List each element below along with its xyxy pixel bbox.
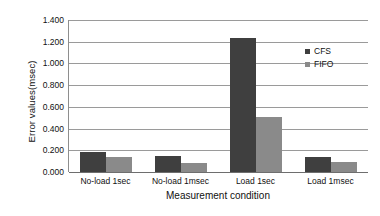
legend-entry[interactable]: CFS (305, 45, 333, 58)
legend-label: CFS (314, 47, 331, 56)
x-tick-label: Load 1sec (218, 176, 293, 186)
bar-fifo[interactable] (106, 157, 132, 172)
y-tick-label: 0.200 (20, 146, 64, 155)
bar-group (69, 20, 144, 172)
bar-cfs[interactable] (80, 152, 106, 172)
bar-fifo[interactable] (181, 163, 207, 172)
x-tick-label: Load 1msec (293, 176, 368, 186)
y-tick-label: 0.400 (20, 124, 64, 133)
y-tick-label: 1.000 (20, 59, 64, 68)
x-tick-label: No-load 1sec (68, 176, 143, 186)
bar-group (144, 20, 219, 172)
bar-cfs[interactable] (305, 157, 331, 172)
legend: CFSFIFO (305, 45, 333, 71)
bar-cfs[interactable] (230, 38, 256, 172)
y-tick-label: 0.600 (20, 103, 64, 112)
x-axis-title: Measurement condition (68, 190, 368, 201)
legend-entry[interactable]: FIFO (305, 58, 333, 71)
bar-group (293, 20, 368, 172)
y-tick-label: 0.800 (20, 81, 64, 90)
bar-groups (69, 20, 368, 172)
y-tick-label: 1.200 (20, 37, 64, 46)
bar-chart: Error values(msec) 0.0000.2000.4000.6000… (0, 0, 380, 216)
bar-fifo[interactable] (256, 117, 282, 172)
legend-swatch-icon (305, 62, 310, 67)
y-tick-label: 1.400 (20, 16, 64, 25)
bar-fifo[interactable] (331, 162, 357, 172)
gridline (69, 172, 368, 173)
legend-label: FIFO (314, 60, 333, 69)
bar-group (219, 20, 294, 172)
y-axis-tick-labels: 0.0000.2000.4000.6000.8001.0001.2001.400 (20, 14, 64, 174)
x-tick-label: No-load 1msec (143, 176, 218, 186)
bar-cfs[interactable] (155, 156, 181, 172)
x-axis-tick-labels: No-load 1secNo-load 1msecLoad 1secLoad 1… (68, 176, 368, 186)
legend-swatch-icon (305, 49, 310, 54)
plot-area (68, 20, 368, 172)
y-tick-label: 0.000 (20, 168, 64, 177)
